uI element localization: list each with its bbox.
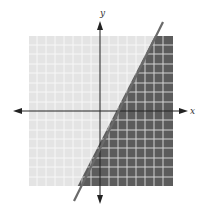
x-axis-label: x — [190, 106, 195, 116]
y-axis-up-arrow-icon — [97, 21, 103, 30]
x-axis-left-arrow-icon — [13, 108, 22, 114]
x-axis-right-arrow-icon — [179, 108, 188, 114]
y-axis-label: y — [99, 8, 106, 18]
y-axis-down-arrow-icon — [97, 195, 103, 204]
coordinate-plane: x y — [0, 0, 204, 216]
